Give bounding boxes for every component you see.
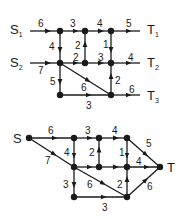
graph-node xyxy=(82,28,88,34)
graph-node xyxy=(26,135,32,141)
edge-weight-label: 1 xyxy=(103,39,109,50)
source-label: S1 xyxy=(10,22,23,38)
graph-node xyxy=(157,164,163,170)
edge-weight-label: 6 xyxy=(87,179,93,190)
edge-weight-label: 2 xyxy=(75,40,81,51)
edge-weight-label: 1 xyxy=(119,147,125,158)
edge-weight-label: 7 xyxy=(45,155,51,166)
graph-node xyxy=(124,135,130,141)
source-label: S2 xyxy=(10,55,23,71)
graph-node xyxy=(108,28,114,34)
sink-label: T xyxy=(167,160,175,175)
single-source-network-diagram: 63475442132636ST xyxy=(13,125,175,213)
edge-weight-label: 2 xyxy=(89,147,95,158)
sink-label: T2 xyxy=(147,55,159,71)
graph-node xyxy=(82,60,88,66)
graph-node xyxy=(71,135,77,141)
edge-weight-label: 6 xyxy=(38,18,44,29)
sink-label: T3 xyxy=(147,88,159,104)
edge-weight-label: 5 xyxy=(50,76,56,87)
graph-node xyxy=(71,164,77,170)
graph-node xyxy=(57,60,63,66)
edge-weight-label: 3 xyxy=(102,202,108,213)
edge-weight-label: 6 xyxy=(147,181,153,192)
edge-weight-label: 4 xyxy=(136,156,142,167)
graph-node xyxy=(71,194,77,200)
edge-weight-label: 3 xyxy=(70,18,76,29)
graph-node xyxy=(124,164,130,170)
edge-weight-label: 4 xyxy=(97,18,103,29)
network-flow-diagrams: 6345723442152636S1S2T1T2T3 6347544213263… xyxy=(0,0,183,219)
graph-node xyxy=(57,28,63,34)
edge-weight-label: 3 xyxy=(98,52,104,63)
edge-weight-label: 5 xyxy=(146,138,152,149)
edge-weight-label: 2 xyxy=(115,75,121,86)
edge-weight-label: 4 xyxy=(128,52,134,63)
graph-node xyxy=(96,164,102,170)
sink-label: T1 xyxy=(147,22,159,38)
graph-node xyxy=(108,60,114,66)
edge-weight-label: 3 xyxy=(85,125,91,136)
edge-weight-label: 4 xyxy=(112,125,118,136)
graph-node xyxy=(96,135,102,141)
edge-weight-label: 4 xyxy=(64,147,70,158)
edge-weight-label: 6 xyxy=(81,82,87,93)
edge-weight-label: 3 xyxy=(86,100,92,111)
edge-weight-label: 7 xyxy=(38,65,44,76)
source-label: S xyxy=(13,131,22,146)
graph-node xyxy=(124,194,130,200)
edge-weight-label: 2 xyxy=(73,52,79,63)
graph-node xyxy=(108,92,114,98)
edge xyxy=(127,167,160,197)
edge-weight-label: 4 xyxy=(49,41,55,52)
multi-source-network-diagram: 6345723442152636S1S2T1T2T3 xyxy=(10,18,159,111)
graph-node xyxy=(57,92,63,98)
edge xyxy=(127,138,160,167)
edge-weight-label: 2 xyxy=(117,179,123,190)
edge-weight-label: 6 xyxy=(48,125,54,136)
edge-weight-label: 5 xyxy=(126,18,132,29)
edge-weight-label: 3 xyxy=(63,179,69,190)
edge-weight-label: 6 xyxy=(129,84,135,95)
